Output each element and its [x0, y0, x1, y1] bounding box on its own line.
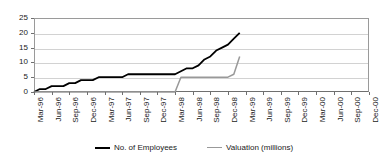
x-tick-mark — [105, 92, 106, 95]
x-tick-label: Mar-99 — [249, 97, 257, 122]
x-tick-label: Dec-97 — [160, 97, 168, 123]
legend-entry[interactable]: No. of Employees — [95, 143, 177, 152]
x-tick-mark — [175, 92, 176, 95]
x-tick-label: Jun-98 — [196, 97, 204, 121]
x-tick-label: Jun-97 — [125, 97, 133, 121]
x-tick-mark — [52, 92, 53, 95]
x-tick-mark — [157, 92, 158, 95]
x-tick-mark — [246, 92, 247, 95]
x-tick-mark — [263, 92, 264, 95]
x-tick-mark — [193, 92, 194, 95]
x-tick-mark — [334, 92, 335, 95]
series-line — [34, 33, 240, 92]
y-tick-label: 25 — [19, 14, 28, 22]
x-tick-mark — [69, 92, 70, 95]
x-tick-label: Sep-97 — [143, 97, 151, 123]
x-tick-label: Sep-00 — [354, 97, 362, 123]
x-tick-label: Dec-96 — [90, 97, 98, 123]
x-tick-label: Mar-96 — [37, 97, 45, 122]
x-tick-label: Dec-99 — [301, 97, 309, 123]
y-tick-label: 10 — [19, 58, 28, 66]
x-tick-mark — [210, 92, 211, 95]
y-tick-label: 0 — [24, 88, 28, 96]
y-tick-label: 5 — [24, 73, 28, 81]
x-tick-label: Dec-00 — [372, 97, 380, 123]
y-axis: 0510152025 — [0, 0, 32, 110]
x-tick-mark — [34, 92, 35, 95]
legend-label: Valuation (millions) — [226, 143, 293, 152]
x-tick-mark — [281, 92, 282, 95]
x-tick-label: Dec-98 — [231, 97, 239, 123]
x-tick-label: Sep-96 — [72, 97, 80, 123]
series-layer — [34, 18, 369, 92]
legend-label: No. of Employees — [114, 143, 177, 152]
x-tick-mark — [122, 92, 123, 95]
x-tick-mark — [369, 92, 370, 95]
x-tick-mark — [298, 92, 299, 95]
x-tick-label: Sep-98 — [213, 97, 221, 123]
x-tick-label: Mar-97 — [108, 97, 116, 122]
legend-entry[interactable]: Valuation (millions) — [207, 143, 293, 152]
legend-swatch-icon — [207, 147, 222, 148]
x-tick-label: Sep-99 — [284, 97, 292, 123]
y-tick-label: 20 — [19, 29, 28, 37]
x-tick-mark — [316, 92, 317, 95]
x-tick-mark — [228, 92, 229, 95]
x-tick-label: Jun-00 — [337, 97, 345, 121]
chart-container: 0510152025 Mar-96Jun-96Sep-96Dec-96Mar-9… — [0, 0, 388, 165]
x-tick-label: Jun-99 — [266, 97, 274, 121]
chart-legend: No. of EmployeesValuation (millions) — [0, 143, 388, 152]
legend-swatch-icon — [95, 147, 110, 149]
x-tick-label: Mar-98 — [178, 97, 186, 122]
y-tick-label: 15 — [19, 44, 28, 52]
x-tick-mark — [140, 92, 141, 95]
x-tick-label: Jun-96 — [55, 97, 63, 121]
x-tick-mark — [87, 92, 88, 95]
x-tick-mark — [351, 92, 352, 95]
x-tick-label: Mar-00 — [319, 97, 327, 122]
